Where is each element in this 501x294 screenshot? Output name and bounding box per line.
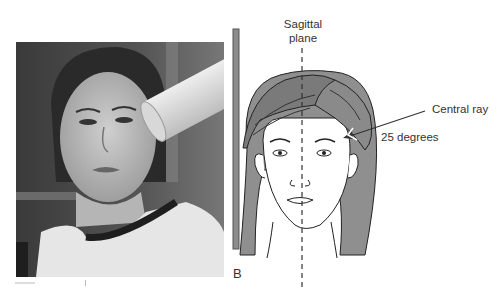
sagittal-label-line2: plane — [282, 31, 324, 45]
sagittal-plane-label: Sagittal plane — [282, 17, 324, 45]
angle-label: 25 degrees — [381, 131, 439, 143]
caption-remnant — [15, 280, 95, 286]
panel-a-photograph — [16, 42, 224, 277]
panel-b-drawing: Sagittal plane Central ray 25 degrees B — [225, 0, 501, 294]
panel-b-label: B — [233, 266, 242, 281]
patient-photo — [16, 42, 224, 277]
head-diagram — [225, 0, 501, 294]
central-ray-label: Central ray — [432, 103, 488, 115]
image-receptor-bar — [233, 29, 239, 249]
sagittal-label-line1: Sagittal — [282, 17, 324, 31]
